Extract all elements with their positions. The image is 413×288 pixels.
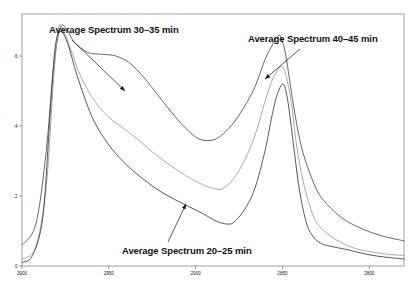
y-axis: 0.2.4.6 xyxy=(14,54,22,269)
y-tick-label: 0 xyxy=(15,264,18,269)
x-tick-label: 2900 xyxy=(191,271,202,276)
annotation-label-20-25: Average Spectrum 20–25 min xyxy=(122,245,252,256)
x-tick-label: 2800 xyxy=(364,271,375,276)
y-tick-label: .2 xyxy=(14,194,18,199)
y-tick-label: .4 xyxy=(14,124,18,129)
y-tick-label: .6 xyxy=(14,54,18,59)
annotation-label-40-45: Average Spectrum 40–45 min xyxy=(248,33,378,44)
x-tick-label: 2850 xyxy=(277,271,288,276)
spectrum-chart-figure: 0.2.4.6 30002950290028502800 Average Spe… xyxy=(0,0,413,288)
annotation-label-30-35: Average Spectrum 30–35 min xyxy=(49,24,179,35)
x-tick-label: 3000 xyxy=(17,271,28,276)
x-tick-label: 2950 xyxy=(104,271,115,276)
x-axis: 30002950290028502800 xyxy=(17,266,375,276)
